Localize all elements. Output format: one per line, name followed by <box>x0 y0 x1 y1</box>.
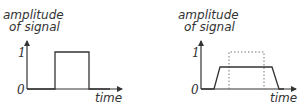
ylabel-line2: of signal <box>184 20 236 34</box>
ytick-0: 0 <box>17 83 25 97</box>
ytick-1: 1 <box>18 46 26 60</box>
panel-real: amplitude of signal 1 0 time <box>178 8 297 105</box>
xlabel: time <box>95 91 122 105</box>
square-pulse <box>27 52 110 89</box>
ytick-0: 0 <box>191 83 199 97</box>
xlabel: time <box>270 91 297 105</box>
ideal-pulse-dotted <box>229 52 264 89</box>
panel-ideal: amplitude of signal 1 0 time <box>3 8 122 105</box>
distorted-pulse <box>201 67 284 89</box>
ytick-1: 1 <box>192 46 200 60</box>
ylabel-line2: of signal <box>9 20 61 34</box>
signal-diagram: amplitude of signal 1 0 time amplitude o… <box>0 0 308 108</box>
